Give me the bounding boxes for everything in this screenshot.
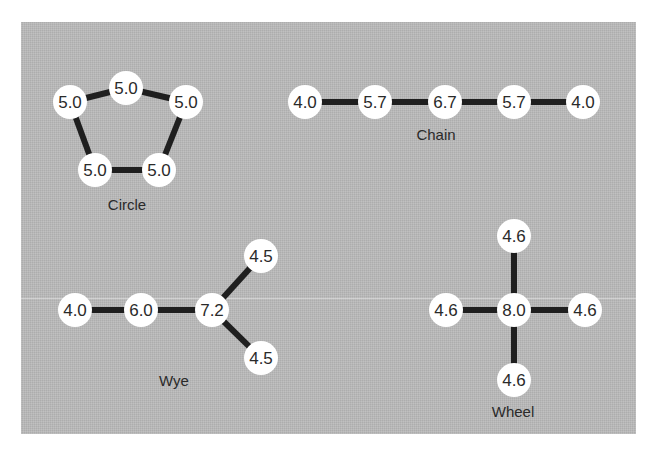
node-value: 8.0 [502,301,526,320]
network-label: Chain [416,126,455,143]
node: 5.7 [358,85,392,119]
node-value: 5.7 [502,93,526,112]
node-value: 4.6 [434,301,458,320]
node-value: 5.0 [147,161,171,180]
network-label: Circle [108,196,146,213]
node-value: 4.0 [63,301,87,320]
network-chain: 4.0 5.7 6.7 5.7 4.0 Chain [288,85,600,143]
node-value: 4.6 [573,301,597,320]
node: 7.2 [195,293,229,327]
node-value: 5.7 [363,93,387,112]
node-value: 4.0 [571,93,595,112]
network-wye: 4.0 6.0 7.2 4.5 4.5 Wye [58,239,278,389]
network-diagram: 5.0 5.0 5.0 5.0 5.0 Circle 4.0 5.7 6.7 5… [0,0,659,452]
network-wheel: 8.0 4.6 4.6 4.6 4.6 Wheel [429,219,602,420]
node: 5.0 [169,85,203,119]
node: 8.0 [497,293,531,327]
node: 5.7 [497,85,531,119]
node: 6.7 [428,85,462,119]
node: 4.6 [429,293,463,327]
node: 4.0 [566,85,600,119]
node: 4.0 [58,293,92,327]
node-value: 4.5 [249,247,273,266]
node: 4.0 [288,85,322,119]
node-value: 4.6 [502,371,526,390]
node: 5.0 [53,85,87,119]
node: 5.0 [78,153,112,187]
node: 4.6 [568,293,602,327]
node-value: 7.2 [200,301,224,320]
network-circle: 5.0 5.0 5.0 5.0 5.0 Circle [53,71,203,213]
node: 4.6 [497,219,531,253]
node-value: 4.0 [293,93,317,112]
node-value: 5.0 [83,161,107,180]
node-value: 5.0 [114,79,138,98]
node-value: 5.0 [174,93,198,112]
node: 4.6 [497,363,531,397]
network-label: Wheel [492,403,535,420]
node: 5.0 [142,153,176,187]
node-value: 6.7 [433,93,457,112]
node-value: 4.6 [502,227,526,246]
node-value: 5.0 [58,93,82,112]
node-value: 4.5 [249,349,273,368]
network-label: Wye [159,372,189,389]
node: 5.0 [109,71,143,105]
node-value: 6.0 [129,301,153,320]
node: 4.5 [244,239,278,273]
node: 6.0 [124,293,158,327]
node: 4.5 [244,341,278,375]
